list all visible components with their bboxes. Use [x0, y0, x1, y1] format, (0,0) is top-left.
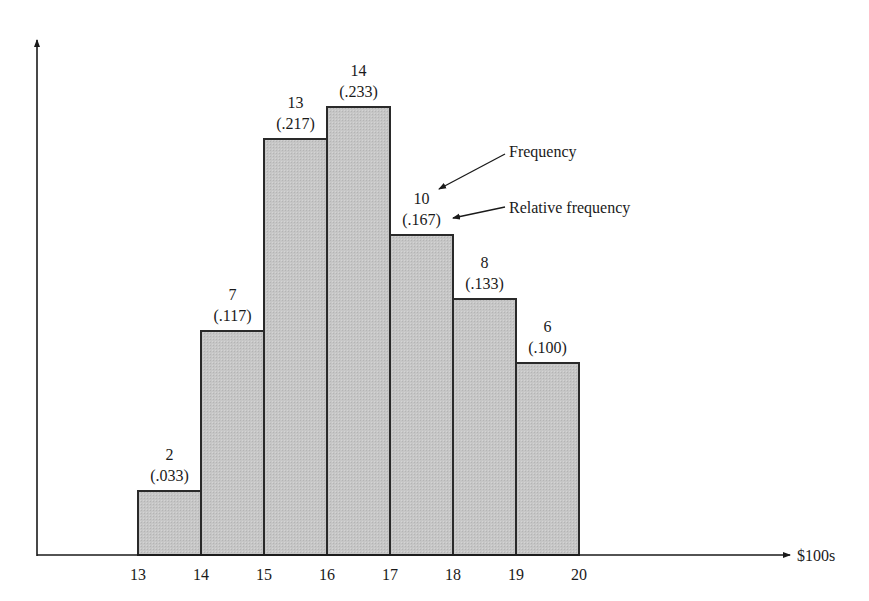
relative-frequency-label: (.133): [465, 275, 504, 293]
relative-frequency-label: (.167): [402, 211, 441, 229]
relative-frequency-annotation: Relative frequency: [509, 199, 630, 217]
frequency-label: 13: [288, 94, 304, 111]
histogram-bar: [264, 139, 327, 555]
frequency-label: 6: [544, 318, 552, 335]
frequency-label: 10: [414, 190, 430, 207]
x-tick-labels: 1314151617181920: [130, 566, 587, 583]
x-tick-label: 17: [382, 566, 398, 583]
x-tick-label: 16: [319, 566, 335, 583]
histogram-chart: 2(.033)7(.117)13(.217)14(.233)10(.167)8(…: [0, 0, 869, 601]
x-tick-label: 18: [445, 566, 461, 583]
frequency-annotation: Frequency: [509, 143, 577, 161]
frequency-annotation-arrow: [439, 154, 505, 189]
histogram-bar: [390, 235, 453, 555]
relative-frequency-label: (.033): [150, 467, 189, 485]
bars-group: [138, 107, 579, 555]
annotations-group: Frequency Relative frequency: [439, 143, 630, 218]
histogram-bar: [516, 363, 579, 555]
relative-frequency-label: (.117): [213, 307, 251, 325]
relative-frequency-label: (.233): [339, 83, 378, 101]
relative-frequency-annotation-arrow: [453, 207, 505, 218]
histogram-bar: [327, 107, 390, 555]
frequency-label: 2: [166, 446, 174, 463]
histogram-bar: [138, 491, 201, 555]
x-tick-label: 14: [193, 566, 209, 583]
histogram-bar: [201, 331, 264, 555]
x-axis-label: $100s: [797, 547, 835, 564]
frequency-label: 8: [481, 254, 489, 271]
frequency-label: 7: [229, 286, 237, 303]
x-tick-label: 20: [571, 566, 587, 583]
x-tick-label: 15: [256, 566, 272, 583]
x-tick-label: 19: [508, 566, 524, 583]
relative-frequency-label: (.100): [528, 339, 567, 357]
histogram-bar: [453, 299, 516, 555]
x-tick-label: 13: [130, 566, 146, 583]
frequency-label: 14: [351, 62, 367, 79]
relative-frequency-label: (.217): [276, 115, 315, 133]
